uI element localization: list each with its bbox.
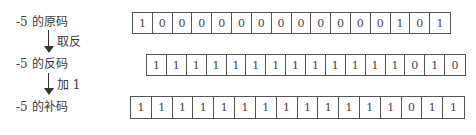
bit-cell: 0 — [410, 13, 430, 33]
bit-cell: 1 — [152, 97, 173, 118]
bit-cell: 1 — [391, 13, 411, 33]
bit-cell: 1 — [147, 55, 167, 75]
bit-cell: 1 — [318, 97, 339, 118]
bit-cell: 0 — [371, 13, 391, 33]
bit-cell: 1 — [266, 55, 286, 75]
bit-cell: 1 — [346, 55, 366, 75]
bit-cell: 1 — [207, 55, 227, 75]
bit-cell: 1 — [306, 55, 326, 75]
bit-cell: 1 — [430, 13, 450, 33]
bit-cell: 1 — [187, 55, 207, 75]
bit-cell: 0 — [402, 97, 423, 118]
bit-cell: 0 — [445, 55, 465, 75]
bit-row-twos-complement: 1111111111111011 — [130, 96, 465, 119]
label-original-code: -5 的原码 — [16, 15, 68, 29]
bit-cell: 1 — [133, 13, 153, 33]
bit-cell: 1 — [360, 97, 381, 118]
bit-cell: 1 — [277, 97, 298, 118]
bit-cell: 0 — [173, 13, 193, 33]
bit-cell: 1 — [214, 97, 235, 118]
bit-cell: 1 — [173, 97, 194, 118]
bit-cell: 1 — [131, 97, 152, 118]
down-arrow-icon — [44, 30, 54, 53]
bit-cell: 1 — [381, 97, 402, 118]
bit-cell: 1 — [227, 55, 247, 75]
bit-cell: 1 — [422, 97, 443, 118]
down-arrow-icon — [44, 73, 54, 95]
bit-cell: 1 — [193, 97, 214, 118]
bit-row-ones-complement: 1111111111111010 — [146, 54, 466, 76]
bit-cell: 0 — [272, 13, 292, 33]
bit-cell: 0 — [351, 13, 371, 33]
bit-cell: 1 — [167, 55, 187, 75]
bit-cell: 1 — [256, 97, 277, 118]
bit-cell: 1 — [235, 97, 256, 118]
bit-cell: 0 — [153, 13, 173, 33]
bit-cell: 0 — [252, 13, 272, 33]
bit-cell: 1 — [326, 55, 346, 75]
bit-cell: 1 — [286, 55, 306, 75]
bit-row-original: 1000000000000101 — [132, 12, 451, 34]
bit-cell: 0 — [192, 13, 212, 33]
bit-cell: 0 — [331, 13, 351, 33]
bit-cell: 0 — [311, 13, 331, 33]
bit-cell: 1 — [339, 97, 360, 118]
label-twos-complement: -5 的补码 — [16, 100, 68, 114]
bit-cell: 0 — [292, 13, 312, 33]
op-add-one: 加 1 — [57, 78, 80, 92]
bit-cell: 0 — [405, 55, 425, 75]
label-ones-complement: -5 的反码 — [16, 57, 68, 71]
bit-cell: 1 — [298, 97, 319, 118]
bit-cell: 1 — [443, 97, 464, 118]
bit-cell: 1 — [246, 55, 266, 75]
bit-cell: 1 — [425, 55, 445, 75]
bit-cell: 1 — [386, 55, 406, 75]
bit-cell: 0 — [212, 13, 232, 33]
op-invert: 取反 — [57, 35, 81, 49]
bit-cell: 0 — [232, 13, 252, 33]
bit-cell: 1 — [366, 55, 386, 75]
